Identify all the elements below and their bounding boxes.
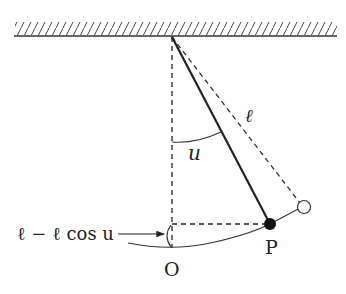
pendulum-diagram: ℓ u ℓ − ℓ cos u O P (0, 0, 346, 294)
bob-label: P (265, 236, 278, 258)
length-label: ℓ (245, 105, 253, 126)
ceiling (14, 22, 337, 36)
height-expression-label: ℓ − ℓ cos u (17, 223, 114, 244)
extended-rod-dashed (172, 37, 300, 203)
origin-label: O (164, 258, 180, 280)
height-bracket (167, 225, 171, 247)
max-displacement-circle (298, 201, 311, 214)
ceiling-hatching (15, 22, 337, 35)
bob-p-circle (264, 218, 276, 230)
angle-label: u (188, 141, 201, 165)
pendulum-rod (172, 37, 270, 224)
